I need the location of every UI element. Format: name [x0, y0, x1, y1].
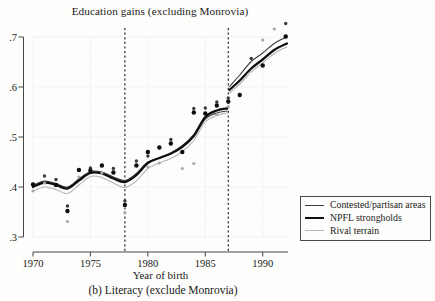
y-tick-label: .5 — [9, 132, 17, 143]
legend: Contested/partisan areas NPFL stronghold… — [300, 196, 431, 241]
scatter-point-npfl — [203, 111, 207, 115]
scatter-point-npfl — [123, 203, 127, 207]
scatter-point-npfl — [157, 145, 161, 149]
scatter-point-npfl — [180, 150, 184, 154]
y-tick-label: .3 — [9, 232, 17, 243]
legend-label-contested: Contested/partisan areas — [330, 200, 426, 210]
scatter-point-contested — [43, 174, 46, 177]
y-tick-label: .6 — [9, 82, 17, 93]
npfl-line-sample-icon — [305, 217, 324, 219]
series-line-npfl — [33, 109, 227, 189]
legend-item-npfl: NPFL strongholds — [305, 212, 427, 225]
scatter-point-contested — [227, 96, 230, 99]
scatter-point-rival — [146, 165, 149, 168]
chart-plot-area: .3.4.5.6.719701975198019851990Year of bi… — [0, 0, 435, 301]
scatter-point-contested — [123, 199, 126, 202]
x-tick-label: 1970 — [23, 258, 44, 269]
y-tick-label: .7 — [9, 32, 17, 43]
scatter-point-npfl — [111, 170, 115, 174]
scatter-point-rival — [66, 220, 69, 223]
scatter-point-npfl — [54, 183, 58, 187]
series-line-rival — [229, 47, 287, 93]
scatter-point-contested — [250, 57, 253, 60]
legend-label-rival: Rival terrain — [330, 226, 379, 236]
scatter-point-contested — [146, 154, 149, 157]
scatter-point-npfl — [284, 34, 288, 38]
scatter-point-npfl — [215, 103, 219, 107]
scatter-point-npfl — [261, 63, 265, 67]
scatter-point-rival — [77, 175, 80, 178]
x-tick-label: 1980 — [137, 258, 158, 269]
x-tick-label: 1990 — [252, 258, 273, 269]
contested-line-sample-icon — [305, 205, 324, 206]
scatter-point-rival — [181, 167, 184, 170]
legend-item-contested: Contested/partisan areas — [305, 199, 427, 212]
scatter-point-npfl — [88, 168, 92, 172]
scatter-point-npfl — [192, 110, 196, 114]
scatter-point-rival — [215, 113, 218, 116]
series-line-contested — [33, 111, 227, 187]
x-axis-title: Year of birth — [133, 269, 189, 281]
scatter-point-rival — [192, 162, 195, 165]
scatter-point-contested — [284, 22, 287, 25]
y-tick-label: .4 — [9, 182, 18, 193]
scatter-point-npfl — [65, 209, 69, 213]
x-tick-label: 1975 — [80, 258, 101, 269]
scatter-point-rival — [31, 189, 34, 192]
scatter-point-rival — [158, 161, 161, 164]
scatter-point-contested — [112, 167, 115, 170]
scatter-point-npfl — [134, 163, 138, 167]
scatter-point-rival — [100, 171, 103, 174]
series-line-rival — [33, 113, 227, 194]
rival-line-sample-icon — [305, 230, 324, 231]
scatter-point-npfl — [169, 141, 173, 145]
scatter-point-contested — [192, 107, 195, 110]
scatter-point-contested — [169, 138, 172, 141]
scatter-point-rival — [273, 27, 276, 30]
scatter-point-npfl — [100, 163, 104, 167]
x-tick-label: 1985 — [195, 258, 216, 269]
figure-caption: (b) Literacy (exclude Monrovia) — [0, 284, 326, 296]
legend-item-rival: Rival terrain — [305, 224, 427, 237]
scatter-point-rival — [261, 38, 264, 41]
legend-label-npfl: NPFL strongholds — [330, 213, 402, 223]
scatter-point-contested — [66, 204, 69, 207]
figure-panel: Education gains (excluding Monrovia) .3.… — [0, 0, 435, 301]
scatter-point-rival — [123, 211, 126, 214]
scatter-point-npfl — [31, 182, 35, 186]
scatter-point-npfl — [146, 150, 150, 154]
scatter-point-contested — [204, 106, 207, 109]
scatter-point-npfl — [77, 168, 81, 172]
scatter-point-contested — [135, 159, 138, 162]
scatter-point-rival — [227, 105, 230, 108]
scatter-point-npfl — [238, 93, 242, 97]
scatter-point-npfl — [226, 99, 230, 103]
scatter-point-contested — [54, 178, 57, 181]
scatter-point-rival — [43, 181, 46, 184]
scatter-point-contested — [215, 100, 218, 103]
